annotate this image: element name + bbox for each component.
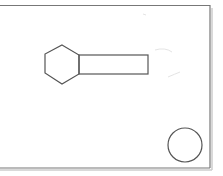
drawing-canvas (0, 0, 223, 176)
bolt-head-hexagon (45, 45, 79, 84)
circle (168, 128, 202, 162)
drawing-frame (0, 5, 212, 170)
bolt-shank-rectangle (79, 55, 148, 74)
